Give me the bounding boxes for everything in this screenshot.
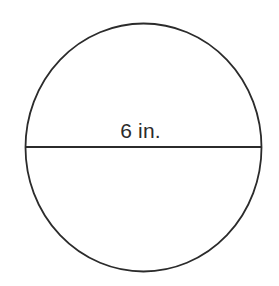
diameter-label: 6 in. [1, 120, 279, 141]
diagram-canvas: 6 in. [0, 0, 279, 286]
circle-diagram-svg [0, 0, 279, 286]
